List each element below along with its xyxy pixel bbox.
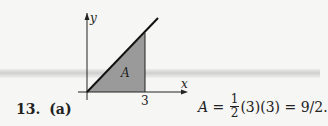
eq-rest: (3)(3) = 9/2. xyxy=(240,99,327,115)
x-axis-label: x xyxy=(181,77,188,91)
problem-part: (a) xyxy=(49,101,71,117)
eq-lhs: A xyxy=(198,99,208,115)
tick-label-3: 3 xyxy=(141,94,149,108)
problem-number-text: 13. xyxy=(16,101,40,117)
y-axis-arrow-icon xyxy=(85,13,90,20)
y-axis-label: y xyxy=(90,11,97,25)
eq-fraction: 1 2 xyxy=(230,93,240,120)
region-label: A xyxy=(121,66,130,80)
problem-number: 13. (a) xyxy=(16,101,72,117)
area-equation: A = 1 2 (3)(3) = 9/2. xyxy=(198,93,328,120)
frac-denominator: 2 xyxy=(231,107,239,120)
eq-equals: = xyxy=(208,99,229,115)
frac-numerator: 1 xyxy=(230,93,240,107)
